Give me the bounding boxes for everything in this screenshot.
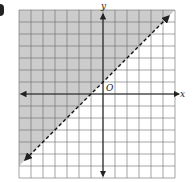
origin-label: O: [106, 83, 114, 93]
coordinate-plane: xyO: [0, 0, 193, 182]
x-axis-label: x: [180, 89, 185, 99]
y-axis-label: y: [100, 1, 107, 11]
